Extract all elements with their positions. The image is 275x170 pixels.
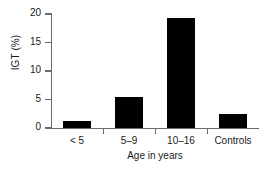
y-axis-tick [45,70,51,71]
y-axis-tick [45,127,51,128]
x-axis-tick [103,129,104,134]
y-axis-tick [45,13,51,14]
bar-chart: IGT (%) 05101520 < 55–910–16Controls Age… [0,0,275,170]
x-axis-tick [155,129,156,134]
y-axis-tick-label: 20 [14,8,41,18]
y-axis-tick-label: 15 [14,37,41,47]
x-axis-tick-label: Controls [207,135,259,146]
y-axis-title: IGT (%) [10,17,21,89]
x-axis-title: Age in years [51,150,259,161]
y-axis-tick [45,42,51,43]
y-axis-tick-label: 10 [14,65,41,75]
bar [115,97,143,128]
y-axis-tick [45,99,51,100]
plot-area: IGT (%) 05101520 < 55–910–16Controls Age… [0,0,275,170]
bar [219,114,247,128]
x-axis-tick [207,129,208,134]
y-axis-line [51,13,52,129]
y-axis-tick-label: 5 [14,94,41,104]
y-axis-tick-label: 0 [14,122,41,132]
bar [167,18,195,128]
x-axis-tick-label: 5–9 [103,135,155,146]
bar [63,121,91,128]
x-axis-tick-label: < 5 [51,135,103,146]
x-axis-tick-label: 10–16 [155,135,207,146]
